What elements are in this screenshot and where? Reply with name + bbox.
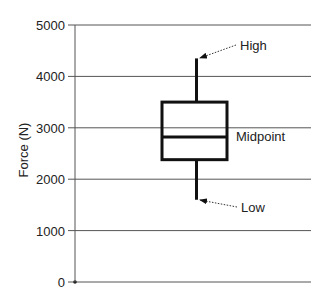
y-tick-label: 1000 [36, 224, 65, 239]
high-arrow [200, 45, 236, 58]
midpoint-label: Midpoint [236, 129, 286, 144]
box-body [162, 102, 227, 160]
y-tick-label: 3000 [36, 121, 65, 136]
y-axis-title: Force (N) [16, 123, 31, 178]
y-tick-label: 4000 [36, 69, 65, 84]
annotations: High Midpoint Low [200, 38, 286, 215]
low-arrow [200, 200, 237, 207]
y-tick-label: 5000 [36, 18, 65, 33]
box-plot [162, 58, 227, 199]
box-plot-chart: 010002000300040005000 Force (N) High Mid… [0, 0, 330, 304]
y-tick-label: 2000 [36, 172, 65, 187]
y-axis-tick-labels: 010002000300040005000 [36, 18, 65, 290]
y-tick-label: 0 [58, 275, 65, 290]
gridlines [75, 25, 311, 282]
high-label: High [240, 38, 267, 53]
low-label: Low [241, 200, 265, 215]
